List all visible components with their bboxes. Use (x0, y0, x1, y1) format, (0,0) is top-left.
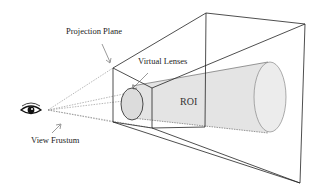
label-roi: ROI (180, 97, 197, 107)
virtual-lens (121, 88, 143, 120)
frustum-diagram (0, 0, 319, 192)
eye-icon (21, 103, 41, 114)
label-projection-plane: Projection Plane (66, 27, 122, 36)
label-view-frustum: View Frustum (31, 136, 79, 145)
roi-volume (132, 62, 286, 133)
label-virtual-lenses: Virtual Lenses (138, 57, 187, 66)
